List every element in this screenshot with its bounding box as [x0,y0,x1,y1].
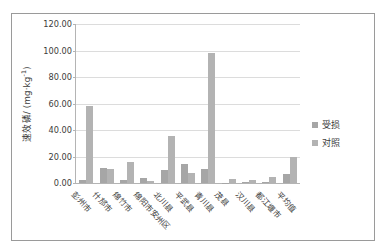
bar-control [188,173,195,183]
legend-item-control: 对照 [312,136,340,149]
x-axis-tick-label: 平武县 [172,189,196,214]
bar-control [127,162,134,183]
legend-label-damaged: 受损 [322,118,340,131]
chart-legend: 受损 对照 [312,118,340,149]
bar-damaged [161,170,168,184]
x-axis-tick-label: 什邡市 [91,189,115,214]
y-axis-tick-label: 120.00 [43,19,72,29]
bar-group [198,24,218,183]
bar-damaged [181,164,188,183]
y-axis-tick-label: 20.00 [49,152,72,162]
y-axis-tick-label: 100.00 [43,46,72,56]
bar-damaged [140,178,147,183]
bar-group [76,24,96,183]
y-axis-title-tail: ) [22,66,32,70]
bar-control [86,106,93,183]
bar-damaged [201,169,208,183]
bar-group [117,24,137,183]
bar-group [239,24,259,183]
bar-damaged [100,168,107,183]
x-axis-tick-label: 彭州市 [70,189,94,214]
bar-control [229,179,236,183]
bar-damaged [262,182,269,183]
bar-control [269,177,276,183]
y-axis-tick-label: 40.00 [49,125,72,135]
bar-group [137,24,157,183]
chart-frame: 速效磷/ (mg·kg-1) 0.0020.0040.0060.0080.001… [11,13,375,241]
bar-control [290,157,297,184]
x-axis-tick-label: 绵竹市 [111,189,135,214]
legend-swatch-control [312,140,318,146]
x-axis-labels: 彭州市什邡市绵竹市绵阳市安州区北川县平武县青川县茂县汉川县都江堰市平均值 [75,185,300,240]
legend-swatch-damaged [312,122,318,128]
bar-groups [76,24,300,183]
bar-group [259,24,279,183]
bar-control [168,136,175,183]
bar-damaged [242,182,249,183]
x-axis-tick-label: 汉川县 [234,189,258,214]
bar-control [249,180,256,183]
bar-group [178,24,198,183]
bar-group [96,24,116,183]
bar-damaged [120,180,127,183]
plot-area: 0.0020.0040.0060.0080.00100.00120.00 [75,24,300,184]
y-axis-tick-label: 80.00 [49,72,72,82]
bar-control [208,53,215,183]
legend-item-damaged: 受损 [312,118,340,131]
y-axis-tick-mark [73,183,76,184]
y-axis-tick-label: 0.00 [54,178,72,188]
legend-label-control: 对照 [322,136,340,149]
bar-damaged [79,180,86,183]
bar-control [107,169,114,183]
y-axis-title-exponent: -1 [20,70,28,77]
bar-damaged [283,174,290,183]
bar-group [280,24,300,183]
bar-control [147,181,154,183]
bar-group [219,24,239,183]
y-axis-title: 速效磷/ (mg·kg-1) [20,66,32,142]
bar-group [157,24,177,183]
y-axis-tick-label: 60.00 [49,99,72,109]
y-axis-title-base: 速效磷/ (mg·kg [22,77,32,142]
x-axis-tick-label: 青川县 [193,189,217,214]
